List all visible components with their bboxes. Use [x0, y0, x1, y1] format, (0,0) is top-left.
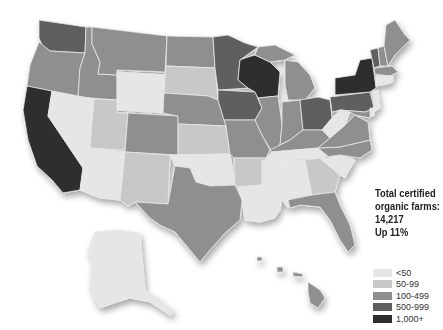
state-NY [335, 58, 376, 95]
legend-item: <50 [373, 267, 429, 279]
state-CT [376, 76, 388, 86]
summary-change: Up 11% [375, 226, 440, 239]
state-AK [88, 230, 175, 315]
state-KS [178, 124, 230, 155]
state-WY [117, 72, 165, 113]
legend-swatch [373, 315, 392, 323]
legend: <50 50-99 100-499 500-999 1,000+ [373, 267, 429, 325]
legend-item: 500-999 [373, 302, 429, 314]
legend-swatch [373, 280, 392, 288]
state-CO [125, 113, 178, 155]
state-DE [370, 108, 374, 116]
summary-line-2: organic farms: [375, 200, 440, 213]
state-AZ [80, 148, 125, 200]
state-FL [288, 192, 355, 252]
legend-swatch [373, 292, 392, 300]
summary-total: 14,217 [375, 213, 440, 226]
legend-item: 100-499 [373, 290, 429, 302]
state-AR [234, 158, 266, 187]
legend-item: 1,000+ [373, 313, 429, 325]
state-IA [218, 90, 262, 120]
state-HI [257, 257, 325, 308]
summary-line-1: Total certified [375, 187, 440, 200]
legend-label: 50-99 [396, 279, 419, 289]
legend-label: 500-999 [396, 302, 429, 312]
legend-label: 100-499 [396, 291, 429, 301]
legend-label: 1,000+ [396, 314, 424, 324]
state-ND [166, 36, 215, 68]
state-MT [92, 27, 167, 75]
legend-item: 50-99 [373, 279, 429, 291]
legend-label: <50 [396, 268, 411, 278]
summary-box: Total certified organic farms: 14,217 Up… [375, 187, 440, 239]
state-NM [120, 152, 170, 206]
legend-swatch [373, 269, 392, 277]
state-ME [384, 20, 410, 66]
legend-swatch [373, 303, 392, 311]
state-MI [285, 60, 315, 100]
state-RI [388, 76, 393, 84]
state-MA [374, 66, 398, 76]
